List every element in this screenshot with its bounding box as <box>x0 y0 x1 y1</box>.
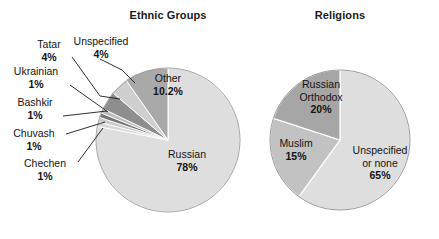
label-unspecified-or-none-pct: 65% <box>340 169 420 182</box>
label-other: Other 10.2% <box>135 72 201 97</box>
leader-line-ukrainian <box>70 85 108 112</box>
label-russian-orthodox-line2: Orthodox <box>286 91 356 104</box>
label-chechen-pct: 1% <box>12 170 78 183</box>
label-muslim: Muslim 15% <box>269 137 323 162</box>
label-ukrainian-name: Ukrainian <box>2 65 70 78</box>
label-chuvash: Chuvash 1% <box>2 127 66 152</box>
label-muslim-name: Muslim <box>269 137 323 150</box>
label-bashkir-pct: 1% <box>7 109 63 122</box>
label-tatar: Tatar 4% <box>25 38 73 63</box>
label-ukrainian-pct: 1% <box>2 78 70 91</box>
label-bashkir-name: Bashkir <box>7 96 63 109</box>
label-chechen-name: Chechen <box>12 157 78 170</box>
label-chechen: Chechen 1% <box>12 157 78 182</box>
label-chuvash-pct: 1% <box>2 140 66 153</box>
label-russian-orthodox-pct: 20% <box>286 103 356 116</box>
label-chuvash-name: Chuvash <box>2 127 66 140</box>
label-unspecified-or-none-line2: or none <box>340 157 420 170</box>
label-other-name: Other <box>135 72 201 85</box>
label-unspecified-or-none: Unspecified or none 65% <box>340 144 420 182</box>
label-ukrainian: Ukrainian 1% <box>2 65 70 90</box>
pie-chart-figure: Ethnic Groups Religions <box>0 0 439 239</box>
label-russian-pct: 78% <box>151 161 223 174</box>
label-russian-orthodox-line1: Russian <box>286 78 356 91</box>
label-muslim-pct: 15% <box>269 150 323 163</box>
label-bashkir: Bashkir 1% <box>7 96 63 121</box>
label-russian-orthodox: Russian Orthodox 20% <box>286 78 356 116</box>
label-other-pct: 10.2% <box>135 85 201 98</box>
label-tatar-pct: 4% <box>25 51 73 64</box>
label-russian: Russian 78% <box>151 148 223 173</box>
label-unspecified-or-none-line1: Unspecified <box>340 144 420 157</box>
label-russian-name: Russian <box>151 148 223 161</box>
label-tatar-name: Tatar <box>25 38 73 51</box>
